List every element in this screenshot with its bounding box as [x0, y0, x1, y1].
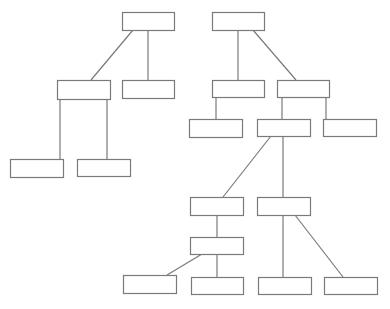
- node-rect: [213, 13, 265, 31]
- node-rect: [259, 278, 312, 295]
- node-rect: [191, 198, 244, 216]
- node-rect: [123, 81, 175, 99]
- node-box-r4a: [191, 238, 244, 255]
- node-rect: [324, 120, 377, 137]
- node-rect: [192, 278, 244, 295]
- edge-r4a-b1: [167, 254, 202, 275]
- node-rect: [325, 278, 378, 295]
- node-rect: [124, 276, 177, 294]
- node-box-r0: [213, 13, 265, 31]
- node-box-r3a: [191, 198, 244, 216]
- node-rect: [191, 238, 244, 255]
- node-box-r1b: [278, 81, 330, 98]
- node-rect: [258, 120, 311, 137]
- node-rect: [190, 120, 243, 138]
- node-box-b3: [259, 278, 312, 295]
- node-rect: [58, 81, 111, 100]
- node-box-b2: [192, 278, 244, 295]
- node-box-b1: [124, 276, 177, 294]
- nodes-layer: [11, 13, 378, 295]
- node-box-l2a: [11, 160, 64, 178]
- node-box-l1b: [123, 81, 175, 99]
- node-box-r3b: [258, 198, 311, 216]
- edge-l0-l1a: [91, 30, 133, 80]
- node-rect: [78, 160, 131, 177]
- node-rect: [11, 160, 64, 178]
- node-box-l2b: [78, 160, 131, 177]
- node-box-r1a: [213, 81, 265, 98]
- node-box-l0: [123, 13, 175, 31]
- node-box-l1a: [58, 81, 111, 100]
- node-box-r2c: [324, 120, 377, 137]
- tree-diagram: [0, 0, 390, 309]
- node-box-r2b: [258, 120, 311, 137]
- node-rect: [213, 81, 265, 98]
- edge-r0-r1b: [253, 30, 296, 80]
- node-box-b4: [325, 278, 378, 295]
- node-rect: [123, 13, 175, 31]
- node-rect: [258, 198, 311, 216]
- edge-r2b-r3a: [223, 136, 271, 197]
- node-rect: [278, 81, 330, 98]
- edge-r3b-b4: [295, 215, 343, 277]
- node-box-r2a: [190, 120, 243, 138]
